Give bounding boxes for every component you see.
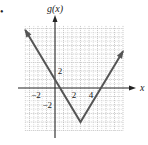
y-tick-label: −2 xyxy=(42,100,52,110)
left-arrow-icon xyxy=(24,29,31,38)
y-axis-label: g(x) xyxy=(47,3,64,15)
axes xyxy=(18,15,136,138)
x-axis-arrow-icon xyxy=(129,86,136,91)
grid xyxy=(25,26,123,131)
x-tick-label: 4 xyxy=(89,90,94,100)
g-line xyxy=(25,30,123,122)
function-graph: • g(x) x −2242−2 xyxy=(0,0,148,145)
x-axis-label: x xyxy=(139,82,145,93)
y-axis-arrow-icon xyxy=(53,15,58,22)
problem-bullet: • xyxy=(0,6,4,17)
x-tick-label: 2 xyxy=(72,90,77,100)
y-tick-label: 2 xyxy=(58,66,63,76)
x-tick-label: −2 xyxy=(31,90,41,100)
